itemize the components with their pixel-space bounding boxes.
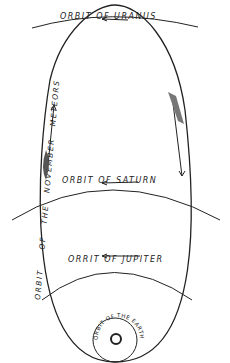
saturn-label: ORBIT OF SATURN [62, 176, 157, 185]
meteor-orbit-diagram: ORBIT OF URANUS ORBIT OF SATURN ORRIT OF… [0, 0, 230, 363]
jupiter-orbit-arc [42, 273, 192, 301]
meteors-label: ORBITOFTHENOVEMBERMETEORS [33, 79, 61, 300]
diagram-canvas: ORBIT OF URANUS ORBIT OF SATURN ORRIT OF… [0, 0, 230, 363]
sun [111, 334, 121, 344]
meteor-swarm-right [168, 92, 184, 124]
